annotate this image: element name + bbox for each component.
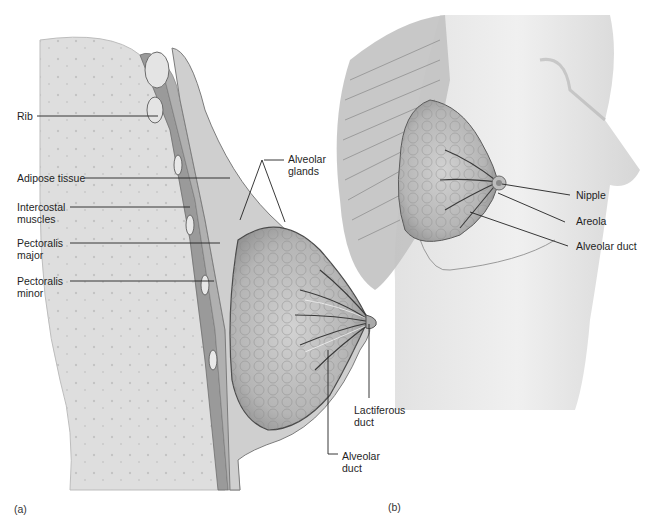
illustration-canvas xyxy=(0,0,648,522)
anatomy-figure: Rib Adipose tissue Intercostal muscles P… xyxy=(0,0,648,522)
label-pectoralis-major: Pectoralis major xyxy=(17,237,63,261)
label-line-1: Alveolar xyxy=(342,450,380,462)
label-line-2: glands xyxy=(288,165,326,177)
label-rib: Rib xyxy=(17,110,33,122)
label-line-2: duct xyxy=(342,462,380,474)
label-pectoralis-minor: Pectoralis minor xyxy=(17,275,63,299)
label-line-1: Pectoralis xyxy=(17,237,63,249)
label-alveolar-glands: Alveolar glands xyxy=(288,153,326,177)
label-lactiferous-duct: Lactiferous duct xyxy=(354,404,405,428)
panel-b-illustration xyxy=(337,15,640,410)
label-nipple: Nipple xyxy=(576,189,606,201)
label-line-1: Pectoralis xyxy=(17,275,63,287)
panel-letter-b: (b) xyxy=(388,501,401,513)
label-areola: Areola xyxy=(576,215,606,227)
panel-a-illustration xyxy=(40,37,376,490)
label-line-2: major xyxy=(17,249,63,261)
label-line-1: Lactiferous xyxy=(354,404,405,416)
label-line-1: Alveolar xyxy=(288,153,326,165)
label-intercostal-muscles: Intercostal muscles xyxy=(17,201,65,225)
panel-letter-a: (a) xyxy=(14,503,27,515)
label-alveolar-duct-b: Alveolar duct xyxy=(576,240,637,252)
label-line-2: muscles xyxy=(17,213,65,225)
label-alveolar-duct-a: Alveolar duct xyxy=(342,450,380,474)
label-line-1: Intercostal xyxy=(17,201,65,213)
label-line-2: duct xyxy=(354,416,405,428)
label-adipose-tissue: Adipose tissue xyxy=(17,172,85,184)
label-line-2: minor xyxy=(17,287,63,299)
